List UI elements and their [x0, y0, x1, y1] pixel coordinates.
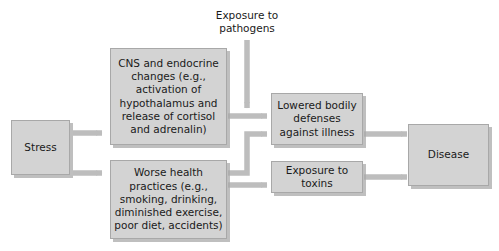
node-worse-health-practices-label: Worse health practices (e.g., smoking, d… [114, 166, 223, 232]
node-exposure-to-toxins[interactable]: Exposure to toxins [271, 161, 363, 193]
label-exposure-to-pathogens: Exposure to pathogens [197, 9, 297, 35]
node-disease-label: Disease [412, 148, 485, 161]
node-lowered-bodily-defenses-label: Lowered bodily defenses against illness [275, 99, 359, 139]
node-disease[interactable]: Disease [408, 124, 489, 186]
node-stress[interactable]: Stress [11, 120, 70, 175]
node-lowered-bodily-defenses[interactable]: Lowered bodily defenses against illness [271, 93, 363, 145]
flowchart-diagram: Stress CNS and endocrine changes (e.g., … [0, 0, 499, 251]
node-stress-label: Stress [15, 141, 66, 154]
node-worse-health-practices[interactable]: Worse health practices (e.g., smoking, d… [110, 160, 227, 239]
node-cns-endocrine-changes-label: CNS and endocrine changes (e.g., activat… [114, 57, 223, 136]
label-exposure-to-pathogens-text: Exposure to pathogens [216, 9, 279, 34]
edge-worse-health-to-lowered-defenses [228, 134, 267, 173]
node-exposure-to-toxins-label: Exposure to toxins [275, 164, 359, 190]
node-cns-endocrine-changes[interactable]: CNS and endocrine changes (e.g., activat… [110, 48, 227, 145]
